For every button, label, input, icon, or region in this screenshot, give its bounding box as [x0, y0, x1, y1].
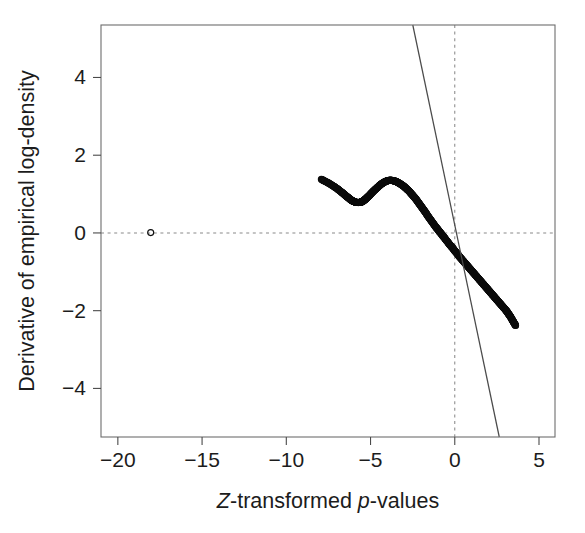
axis-title-part: Z: [216, 489, 231, 513]
axis-title-part: -values: [370, 489, 439, 513]
y-tick-label: −4: [62, 376, 86, 399]
axis-title-part: -transformed: [230, 489, 358, 513]
x-tick-label: −10: [268, 448, 304, 471]
x-axis-title: Z-transformed p-values: [216, 489, 439, 513]
figure-container: −20−15−10−505 420−2−4 Z-transformed p-va…: [0, 0, 585, 533]
y-tick-label: 4: [74, 65, 86, 88]
y-tick-label: 2: [74, 143, 86, 166]
x-tick-label: −20: [100, 448, 136, 471]
scatter-plot: −20−15−10−505 420−2−4 Z-transformed p-va…: [0, 0, 585, 533]
y-tick-label: −2: [62, 299, 86, 322]
x-tick-label: −15: [184, 448, 220, 471]
x-tick-label: 5: [533, 448, 545, 471]
axis-title-part: p: [357, 489, 370, 513]
x-tick-label: −5: [359, 448, 383, 471]
x-tick-label: 0: [449, 448, 461, 471]
axis-title-part: Derivative of empirical log-density: [15, 70, 39, 392]
y-axis-title: Derivative of empirical log-density: [15, 70, 39, 392]
y-tick-label: 0: [74, 221, 86, 244]
